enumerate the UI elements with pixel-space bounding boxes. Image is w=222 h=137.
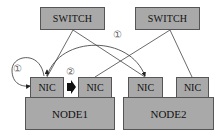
switch-1: SWITCH (40, 7, 105, 30)
nic-label: NIC (184, 82, 201, 93)
node-1-label: NODE1 (52, 108, 88, 120)
node-1-nic-1: NIC (30, 77, 64, 98)
nic-label: NIC (137, 82, 154, 93)
nic-label: NIC (38, 82, 55, 93)
switch-2: SWITCH (135, 7, 200, 30)
node-1-nic-2: NIC (78, 77, 112, 98)
switch-2-label: SWITCH (148, 13, 188, 24)
node-2-nic-2: NIC (176, 77, 209, 98)
link-switch2-nic2 (95, 30, 170, 77)
step-1-top-label: ① (113, 29, 122, 40)
node-2-nic-1: NIC (128, 77, 163, 98)
failover-arrow-icon (67, 80, 76, 94)
node-2-label: NODE2 (150, 108, 186, 120)
step-2-label: ② (66, 66, 75, 77)
step-1-left-label: ① (13, 63, 22, 74)
node-1: NODE1 (25, 97, 115, 130)
switch-1-label: SWITCH (53, 13, 93, 24)
link-switch1-nic3 (73, 30, 145, 77)
nic-label: NIC (86, 82, 103, 93)
node-2: NODE2 (123, 97, 214, 130)
link-switch2-nic4 (170, 30, 192, 77)
